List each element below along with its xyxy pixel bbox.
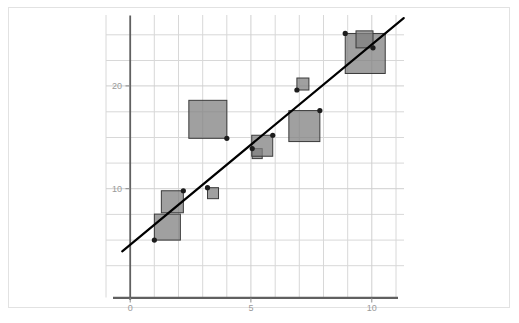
- bubble-marker: [189, 100, 227, 138]
- bubble-marker: [154, 214, 180, 240]
- y-tick-label-10: 10: [112, 184, 122, 194]
- trend-line: [122, 18, 403, 251]
- bubble-marker: [289, 111, 320, 142]
- data-point-dot: [224, 136, 229, 141]
- data-point-dot: [205, 185, 210, 190]
- data-point-dot: [317, 108, 322, 113]
- chart-figure: 20 10 0 5 10: [0, 0, 519, 323]
- x-tick-label-10: 10: [367, 303, 377, 313]
- data-point-dot: [152, 238, 157, 243]
- data-point-dot: [250, 146, 255, 151]
- x-tick-label-5: 5: [248, 303, 253, 313]
- scatter-plot: 20 10 0 5 10: [0, 0, 519, 323]
- data-point-dot: [270, 133, 275, 138]
- data-point-dot: [370, 45, 375, 50]
- y-tick-label-20: 20: [112, 81, 122, 91]
- data-point-dot: [343, 31, 348, 36]
- x-tick-label-0: 0: [128, 303, 133, 313]
- data-point-dot: [181, 188, 186, 193]
- data-point-dot: [294, 87, 299, 92]
- bubble-marker: [252, 135, 273, 156]
